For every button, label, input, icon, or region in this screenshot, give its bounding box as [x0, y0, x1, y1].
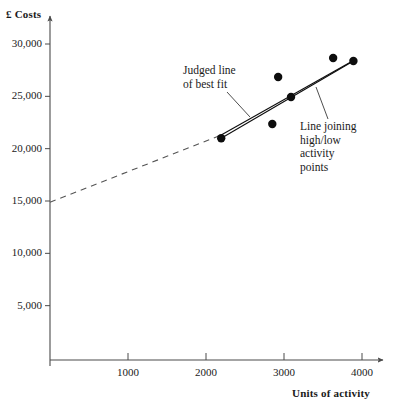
data-point [274, 73, 282, 81]
x-tick-label: 1000 [104, 366, 152, 378]
data-point [217, 134, 225, 142]
plot-area [0, 0, 396, 409]
x-axis-ticks [128, 353, 362, 360]
x-tick-label: 2000 [182, 366, 230, 378]
y-tick-label: 15,000 [12, 194, 42, 206]
y-tick-label: 5,000 [17, 299, 42, 311]
annotation-judged-line-of-best-fit: Judged line of best fit [183, 64, 236, 91]
data-point [268, 120, 276, 128]
cost-estimation-scatter-chart: £ Costs Units of activity Judged line of… [0, 0, 396, 409]
data-point [287, 93, 295, 101]
y-axis-ticks [45, 44, 50, 306]
y-tick-label: 30,000 [12, 37, 42, 49]
y-tick-label: 20,000 [12, 142, 42, 154]
annotation-line-joining-high-low-activity-points: Line joining high/low activity points [300, 120, 357, 174]
data-point [349, 57, 357, 65]
best-fit-dashed-extension [50, 135, 221, 202]
x-tick-label: 4000 [338, 366, 386, 378]
y-tick-label: 10,000 [12, 246, 42, 258]
y-tick-label: 25,000 [12, 89, 42, 101]
x-tick-label: 3000 [260, 366, 308, 378]
data-point [329, 54, 337, 62]
